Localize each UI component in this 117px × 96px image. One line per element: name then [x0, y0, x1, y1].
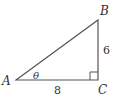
right-angle-marker — [90, 72, 98, 80]
vertex-label-a: A — [1, 74, 11, 88]
side-length-bc: 6 — [103, 44, 110, 57]
vertex-label-c: C — [98, 83, 107, 96]
right-triangle-diagram: A B C θ 8 6 — [0, 0, 117, 96]
triangle-shape — [16, 20, 98, 80]
side-length-ac: 8 — [54, 84, 61, 96]
angle-label-theta: θ — [33, 70, 39, 81]
vertex-label-b: B — [99, 4, 109, 18]
